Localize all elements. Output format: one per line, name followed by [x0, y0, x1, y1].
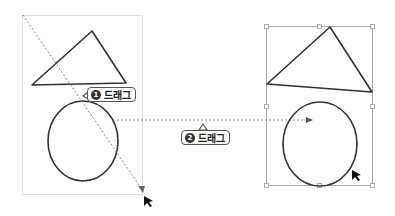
arrowhead-horizontal: [306, 117, 313, 123]
step-number-2: 2: [185, 133, 195, 143]
step-number-1: 1: [91, 90, 101, 100]
arrowhead-diagonal: [138, 186, 145, 193]
selection-box: [267, 27, 373, 186]
diagram-canvas: [0, 0, 395, 216]
callout-label-2: 드래그: [198, 130, 225, 145]
cursor-icon-left: [144, 196, 153, 207]
callout-label-1: 드래그: [104, 87, 131, 102]
callout-drag-1: 1 드래그: [87, 87, 136, 102]
triangle-right: [267, 27, 372, 92]
drag-line-diagonal: [23, 15, 143, 191]
cursor-icon-right: [352, 170, 361, 181]
circle-left: [48, 101, 118, 181]
circle-right: [283, 102, 357, 186]
triangle-left: [32, 31, 126, 85]
callout-drag-2: 2 드래그: [181, 130, 230, 145]
selection-handles[interactable]: [265, 25, 375, 188]
left-drag-area: [23, 16, 143, 195]
